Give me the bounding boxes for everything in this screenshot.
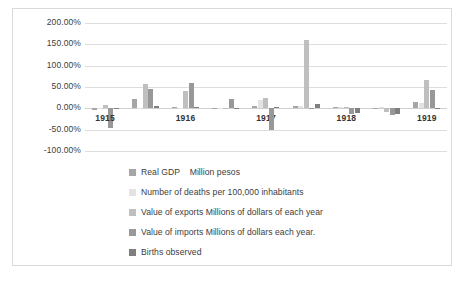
bar [390, 108, 395, 114]
bar-group: 1921 [326, 9, 366, 159]
bar [252, 106, 257, 108]
y-axis-tick-label: -100.00% [44, 146, 81, 155]
bar-group: 1918 [206, 9, 246, 159]
bar [430, 90, 435, 109]
legend-swatch-icon [129, 229, 136, 236]
bar [137, 108, 142, 109]
legend-item[interactable]: Value of exports Millions of dollars of … [129, 205, 323, 219]
bar [293, 106, 298, 108]
bar [114, 108, 119, 109]
bar [258, 100, 263, 109]
bar [269, 108, 274, 130]
bar [172, 107, 177, 108]
bar [395, 108, 400, 114]
bar [435, 108, 440, 109]
legend-label: Births observed [141, 247, 201, 257]
bar [315, 104, 320, 108]
y-axis-tick-label: 0.00% [56, 103, 81, 112]
chart-legend: Real GDP Million pesosNumber of deaths p… [13, 161, 453, 267]
bar [419, 103, 424, 108]
bar [338, 107, 343, 108]
y-axis-tick-label: 200.00% [47, 18, 81, 27]
bar [379, 107, 384, 109]
bar [143, 84, 148, 108]
y-axis-tick-label: 150.00% [47, 39, 81, 48]
bar [263, 98, 268, 108]
bar [304, 40, 309, 108]
bar [189, 83, 194, 108]
chart-frame: 200.00%150.00%100.00%50.00%0.00%-50.00%-… [12, 8, 452, 266]
bar [183, 91, 188, 108]
bar [344, 107, 349, 108]
bar [103, 105, 108, 108]
y-axis-tick-label: 100.00% [47, 61, 81, 70]
legend-item[interactable]: Value of imports Millions of dollars eac… [129, 225, 315, 239]
bar-group: 1915 [85, 9, 125, 159]
bar-group: 1916 [125, 9, 165, 159]
bars-area: 191519161917191819191920192119221923 [85, 9, 447, 159]
bar [373, 108, 378, 109]
bar-group: 1922 [367, 9, 407, 159]
plot-region: 200.00%150.00%100.00%50.00%0.00%-50.00%-… [13, 9, 453, 159]
x-axis-tick-label: 1915 [85, 113, 125, 123]
bar [349, 108, 354, 114]
bar-group: 1923 [407, 9, 447, 159]
bar [333, 107, 338, 109]
legend-swatch-icon [129, 169, 136, 176]
bar [355, 108, 360, 113]
legend-swatch-icon [129, 189, 136, 196]
y-axis-tick-label: 50.00% [52, 82, 81, 91]
bar [132, 99, 137, 108]
bar [298, 106, 303, 109]
bar [92, 108, 97, 109]
bar [178, 108, 183, 109]
bar [212, 108, 217, 109]
legend-swatch-icon [129, 249, 136, 256]
bar [413, 102, 418, 108]
bar [309, 108, 314, 109]
bar [194, 107, 199, 108]
legend-label: Number of deaths per 100,000 inhabitants [141, 187, 304, 197]
bar [148, 89, 153, 109]
y-axis-labels: 200.00%150.00%100.00%50.00%0.00%-50.00%-… [13, 9, 81, 159]
bar [234, 108, 239, 109]
bar [97, 108, 102, 109]
legend-label: Real GDP Million pesos [141, 167, 240, 177]
legend-label: Value of exports Millions of dollars of … [141, 207, 323, 217]
legend-item[interactable]: Births observed [129, 245, 201, 259]
bar [154, 106, 159, 108]
bar [229, 99, 234, 108]
legend-item[interactable]: Real GDP Million pesos [129, 165, 240, 179]
legend-swatch-icon [129, 209, 136, 216]
bar-group: 1920 [286, 9, 326, 159]
bar-group: 1917 [165, 9, 205, 159]
bar-group: 1919 [246, 9, 286, 159]
bar [384, 108, 389, 112]
bar [274, 107, 279, 109]
legend-label: Value of imports Millions of dollars eac… [141, 227, 315, 237]
bar [424, 80, 429, 109]
bar [218, 108, 223, 109]
y-axis-tick-label: -50.00% [49, 125, 81, 134]
bar [223, 108, 228, 109]
legend-item[interactable]: Number of deaths per 100,000 inhabitants [129, 185, 304, 199]
